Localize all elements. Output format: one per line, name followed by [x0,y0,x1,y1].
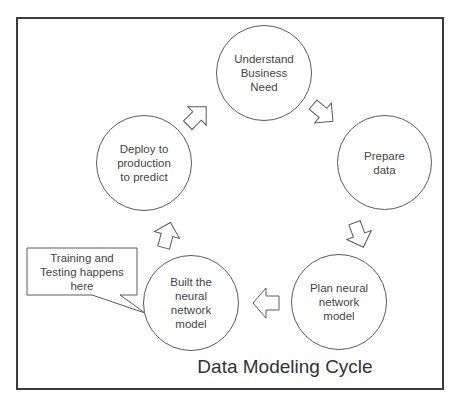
node-built-neural-network-model: Built the neural network model [143,255,239,351]
node-label: Deploy to production to predict [117,142,171,184]
node-label: Built the neural network model [170,275,212,331]
node-prepare-data: Prepare data [337,115,432,210]
node-label: Prepare data [364,149,405,177]
node-deploy-to-production: Deploy to production to predict [96,115,192,211]
node-plan-neural-network-model: Plan neural network model [291,254,387,350]
node-label: Plan neural network model [310,281,368,323]
arrow-plan-to-built-icon [253,288,279,318]
arrow-understand-to-prepare-icon [305,95,342,132]
arrow-prepare-to-plan-icon [342,218,375,251]
diagram-title: Data Modeling Cycle [170,356,400,378]
callout-text: Training and Testing happens here [27,249,137,295]
arrow-built-to-deploy-icon [151,219,183,251]
node-label: Understand Business Need [234,52,293,94]
node-understand-business-need: Understand Business Need [216,25,312,121]
arrow-deploy-to-understand-icon [179,98,216,135]
